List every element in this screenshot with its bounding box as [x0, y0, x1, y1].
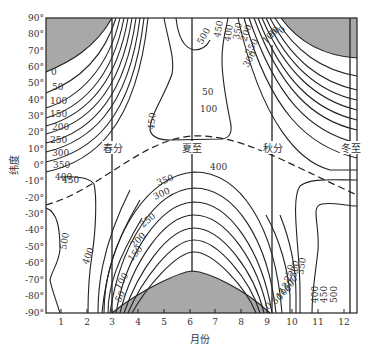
svg-text:500: 500 [58, 231, 71, 250]
svg-text:12: 12 [338, 317, 349, 327]
svg-text:250: 250 [50, 135, 67, 145]
svg-text:6: 6 [187, 317, 193, 327]
svg-text:3: 3 [109, 317, 115, 327]
svg-text:9: 9 [264, 317, 270, 327]
svg-text:30°: 30° [28, 111, 44, 121]
plot-frame [46, 18, 357, 313]
svg-text:1: 1 [58, 317, 64, 327]
svg-text:-50°: -50° [25, 242, 44, 252]
north-contour-labels: 500 450 400 350 50 100 450 [146, 19, 244, 130]
svg-text:5: 5 [161, 317, 167, 327]
svg-text:-10°: -10° [25, 176, 44, 186]
svg-text:350: 350 [53, 160, 70, 170]
svg-text:300: 300 [52, 148, 69, 158]
svg-text:40°: 40° [28, 95, 44, 105]
svg-text:11: 11 [312, 317, 323, 327]
svg-text:50: 50 [52, 82, 64, 92]
svg-text:-20°: -20° [25, 193, 44, 203]
svg-text:0°: 0° [34, 160, 44, 170]
insolation-contour-chart: 春分 夏至 秋分 冬至 90° 80° 70° 60° 50° 40° 30° … [0, 0, 374, 353]
spring-equinox-label: 春分 [103, 143, 123, 154]
left-contour-labels: 0 50 100 150 200 250 300 350 400 450 500 [50, 67, 79, 250]
svg-text:50: 50 [202, 87, 214, 97]
svg-text:70°: 70° [28, 46, 44, 56]
svg-text:400: 400 [210, 162, 227, 172]
contours-south-left [46, 177, 96, 313]
svg-text:50°: 50° [28, 78, 44, 88]
svg-text:-70°: -70° [25, 275, 44, 285]
autumn-equinox-label: 秋分 [263, 142, 283, 154]
svg-text:2: 2 [84, 317, 90, 327]
svg-text:450: 450 [146, 112, 157, 130]
svg-text:50: 50 [113, 289, 128, 304]
svg-text:4: 4 [135, 317, 141, 327]
svg-text:100: 100 [200, 104, 217, 114]
svg-text:450: 450 [319, 286, 329, 303]
summer-solstice-label: 夏至 [182, 143, 202, 154]
svg-text:-60°: -60° [25, 258, 44, 268]
x-axis-title: 月份 [190, 334, 210, 345]
svg-text:100: 100 [50, 96, 67, 106]
svg-text:150: 150 [50, 109, 67, 119]
svg-text:200: 200 [52, 122, 69, 132]
svg-text:10°: 10° [28, 144, 44, 154]
svg-text:500: 500 [329, 286, 339, 303]
svg-text:-80°: -80° [25, 291, 44, 301]
svg-text:-90°: -90° [25, 308, 44, 318]
y-axis-title: 纬度 [8, 155, 20, 175]
svg-text:7: 7 [212, 317, 218, 327]
svg-text:150: 150 [126, 243, 145, 263]
svg-text:500: 500 [195, 26, 212, 46]
y-axis: 90° 80° 70° 60° 50° 40° 30° 20° 10° 0° -… [25, 13, 44, 318]
svg-text:8: 8 [238, 317, 244, 327]
svg-text:250: 250 [138, 211, 158, 230]
svg-text:60°: 60° [28, 62, 44, 72]
svg-text:-30°: -30° [25, 209, 44, 219]
svg-text:80°: 80° [28, 29, 44, 39]
svg-text:400: 400 [80, 246, 95, 266]
svg-text:-40°: -40° [25, 225, 44, 235]
svg-text:300: 300 [152, 185, 172, 201]
svg-text:0: 0 [51, 67, 57, 77]
winter-solstice-label: 冬至 [341, 142, 361, 154]
svg-text:10: 10 [286, 317, 298, 327]
svg-text:20°: 20° [28, 127, 44, 137]
svg-text:90°: 90° [28, 13, 44, 23]
svg-text:450: 450 [62, 175, 79, 185]
